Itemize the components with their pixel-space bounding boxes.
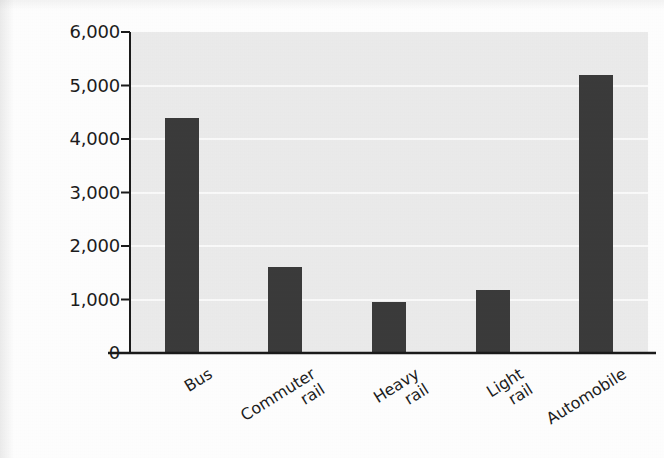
axis-lines: [0, 0, 664, 458]
bar-chart-figure: BTU per passenger-mile 01,0002,0003,0004…: [0, 0, 664, 458]
